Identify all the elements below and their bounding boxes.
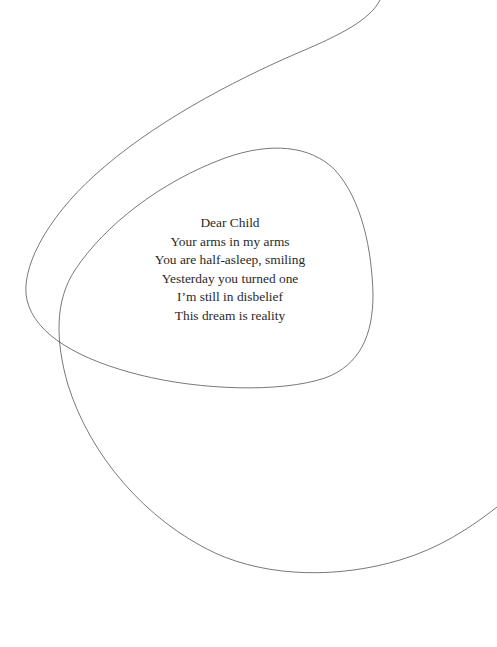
poem-text: Dear Child Your arms in my arms You are …	[0, 214, 460, 326]
poem-line: You are half-asleep, smiling	[0, 251, 460, 270]
poem-line: Your arms in my arms	[0, 233, 460, 252]
poem-line: Yesterday you turned one	[0, 270, 460, 289]
poem-line: This dream is reality	[0, 307, 460, 326]
poem-line: I’m still in disbelief	[0, 288, 460, 307]
poem-line: Dear Child	[0, 214, 460, 233]
